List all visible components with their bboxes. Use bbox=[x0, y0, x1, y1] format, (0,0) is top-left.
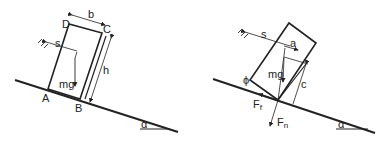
label-mg: mg bbox=[268, 68, 283, 80]
label-C: C bbox=[103, 23, 111, 35]
label-c: c bbox=[301, 78, 307, 90]
incline-ramp bbox=[15, 80, 178, 132]
label-Ff: Ff bbox=[253, 98, 263, 112]
incline-ramp bbox=[213, 79, 375, 133]
label-alpha: α bbox=[141, 118, 148, 130]
label-B: B bbox=[75, 102, 82, 114]
label-s: s bbox=[55, 37, 61, 49]
left-figure: D C b h s mg A B α bbox=[15, 8, 178, 132]
wind-icon bbox=[238, 29, 248, 38]
label-A: A bbox=[42, 92, 50, 104]
diagram-canvas: D C b h s mg A B α s a mg c ϕ Ff Fn α bbox=[0, 0, 386, 142]
right-figure: s a mg c ϕ Ff Fn α bbox=[213, 23, 375, 133]
label-D: D bbox=[62, 18, 70, 30]
gravity-vector bbox=[75, 52, 77, 58]
label-b: b bbox=[88, 8, 94, 20]
label-mg: mg bbox=[59, 78, 74, 90]
label-alpha: α bbox=[338, 118, 345, 130]
wind-icon bbox=[38, 39, 48, 48]
label-a: a bbox=[290, 37, 297, 49]
label-s: s bbox=[261, 28, 267, 40]
label-h: h bbox=[103, 64, 109, 76]
label-Fn: Fn bbox=[277, 116, 288, 130]
label-phi: ϕ bbox=[243, 74, 249, 86]
dim-s bbox=[245, 32, 290, 46]
